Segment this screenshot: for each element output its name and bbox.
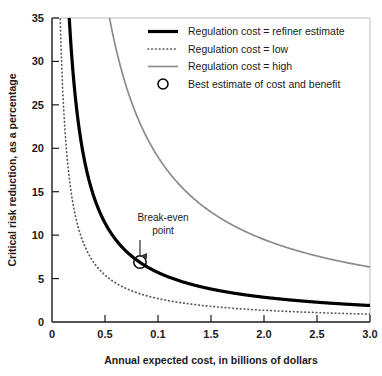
y-tick-label: 35: [32, 12, 44, 24]
legend-entry-label: Best estimate of cost and benefit: [188, 78, 340, 90]
break-even-label-line2: point: [152, 225, 174, 236]
x-tick-label: 0: [49, 328, 55, 340]
x-tick-label: 2.5: [309, 328, 324, 340]
chart-figure: 00.50.11.52.02.53.0 05101520253035 Break…: [0, 0, 382, 376]
y-axis-title: Critical risk reduction, as a percentage: [6, 73, 18, 266]
legend-entry-label: Regulation cost = high: [188, 60, 292, 72]
y-tick-label: 15: [32, 186, 44, 198]
x-tick-label: 0.5: [97, 328, 112, 340]
break-even-label-line1: Break-even: [137, 212, 188, 223]
risk-reduction-cost-chart: 00.50.11.52.02.53.0 05101520253035 Break…: [0, 0, 382, 376]
y-tick-label: 20: [32, 142, 44, 154]
y-tick-label: 5: [38, 273, 44, 285]
y-tick-label: 30: [32, 55, 44, 67]
x-tick-label: 3.0: [362, 328, 377, 340]
legend-entry-label: Regulation cost = refiner estimate: [188, 25, 345, 37]
x-tick-label: 0.1: [150, 328, 165, 340]
y-tick-label: 10: [32, 229, 44, 241]
chart-background: [0, 0, 382, 376]
y-tick-label: 0: [38, 316, 44, 328]
x-axis-title: Annual expected cost, in billions of dol…: [104, 354, 318, 366]
x-tick-label: 2.0: [256, 328, 271, 340]
legend-entry-label: Regulation cost = low: [188, 43, 289, 55]
x-tick-label: 1.5: [203, 328, 218, 340]
y-tick-label: 25: [32, 99, 44, 111]
